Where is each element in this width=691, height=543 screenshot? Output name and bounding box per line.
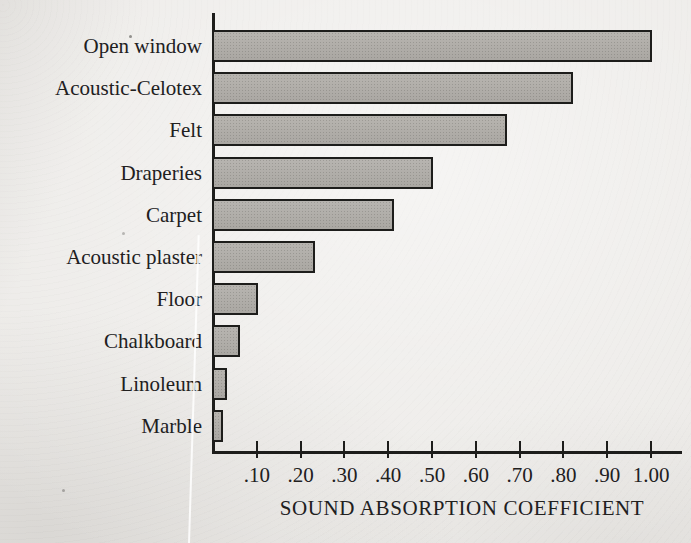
x-tick	[475, 441, 477, 458]
x-tick-label: .60	[463, 462, 489, 488]
x-tick	[431, 441, 433, 458]
x-tick	[650, 441, 652, 458]
sound-absorption-bar-chart: Open windowAcoustic-CelotexFeltDraperies…	[0, 0, 691, 543]
x-tick	[387, 441, 389, 458]
category-label: Marble	[0, 413, 202, 439]
category-label: Acoustic plaster	[0, 244, 202, 270]
x-tick	[343, 441, 345, 458]
x-tick	[256, 441, 258, 458]
bar	[212, 30, 652, 62]
bar	[212, 368, 227, 400]
category-label: Draperies	[0, 160, 202, 186]
category-label: Floor	[0, 286, 202, 312]
x-tick	[519, 441, 521, 458]
x-axis-line	[212, 451, 682, 454]
bar	[212, 199, 394, 231]
category-label: Carpet	[0, 202, 202, 228]
category-label: Felt	[0, 117, 202, 143]
category-label: Acoustic-Celotex	[0, 75, 202, 101]
x-tick-label: .90	[594, 462, 620, 488]
x-axis-title: SOUND ABSORPTION COEFFICIENT	[280, 496, 645, 521]
bar	[212, 157, 433, 189]
scan-speck-artifact	[62, 489, 65, 492]
bar	[212, 410, 223, 442]
category-label: Open window	[0, 33, 202, 59]
bar	[212, 241, 315, 273]
bar	[212, 325, 240, 357]
scan-speck-artifact	[122, 232, 125, 235]
scanned-page: Open windowAcoustic-CelotexFeltDraperies…	[0, 0, 691, 543]
bar	[212, 283, 258, 315]
x-tick-label: .10	[244, 462, 270, 488]
x-tick-label: .20	[287, 462, 313, 488]
x-tick-label: 1.00	[633, 462, 670, 488]
category-label: Chalkboard	[0, 328, 202, 354]
x-tick	[562, 441, 564, 458]
x-tick	[300, 441, 302, 458]
x-tick-label: .40	[375, 462, 401, 488]
category-label: Linoleum	[0, 371, 202, 397]
bar	[212, 72, 573, 104]
bar	[212, 114, 507, 146]
x-tick-label: .80	[550, 462, 576, 488]
x-tick-label: .70	[506, 462, 532, 488]
x-tick	[606, 441, 608, 458]
x-tick-label: .30	[331, 462, 357, 488]
x-tick-label: .50	[419, 462, 445, 488]
scan-speck-artifact	[129, 35, 132, 38]
